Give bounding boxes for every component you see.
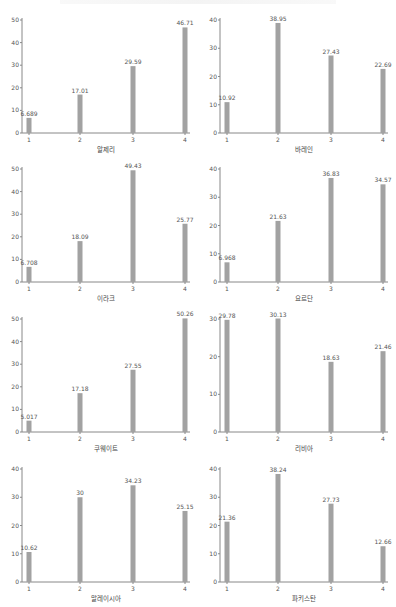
y-tick-label: 10 xyxy=(209,101,217,108)
x-tick-label: 4 xyxy=(381,136,385,143)
bar xyxy=(78,497,83,582)
bar xyxy=(131,485,136,582)
y-tick-label: 50 xyxy=(11,16,19,23)
y-tick-label: 20 xyxy=(11,383,19,390)
chart-panel-jordan: 01020304016.968221.63336.83434.57요르단 xyxy=(198,157,396,307)
y-tick-label: 40 xyxy=(209,465,217,472)
bar-value-label: 10.92 xyxy=(218,94,235,101)
x-tick-label: 2 xyxy=(78,435,82,442)
bar-value-label: 25.77 xyxy=(176,216,193,223)
bar-value-label: 38.24 xyxy=(269,466,286,473)
y-tick-label: 20 xyxy=(11,522,19,529)
bar-value-label: 17.01 xyxy=(71,87,88,94)
bar-value-label: 30 xyxy=(76,489,84,496)
chart-panel-algeria: 0102030405016.689217.01329.59446.71알제리 xyxy=(0,8,198,158)
bar-value-label: 21.36 xyxy=(218,514,235,521)
bar xyxy=(78,95,83,133)
bar xyxy=(329,178,334,282)
bar xyxy=(276,23,281,133)
y-tick-label: 50 xyxy=(11,315,19,322)
bar-value-label: 30.13 xyxy=(269,311,286,318)
bar xyxy=(78,241,83,282)
bar xyxy=(276,474,281,582)
y-tick-label: 10 xyxy=(11,255,19,262)
x-tick-label: 3 xyxy=(131,585,135,592)
bar xyxy=(225,320,230,432)
bar xyxy=(183,511,188,582)
x-tick-label: 2 xyxy=(276,435,280,442)
y-tick-label: 40 xyxy=(209,165,217,172)
bar xyxy=(329,362,334,432)
bar-value-label: 36.83 xyxy=(322,170,339,177)
x-tick-label: 1 xyxy=(27,585,31,592)
bar xyxy=(381,546,386,582)
bar-value-label: 22.69 xyxy=(374,61,391,68)
bar xyxy=(131,370,136,432)
bar-value-label: 21.46 xyxy=(374,343,391,350)
y-tick-label: 40 xyxy=(11,188,19,195)
x-axis-label: 바레인 xyxy=(295,145,313,154)
x-tick-label: 4 xyxy=(381,285,385,292)
y-tick-label: 40 xyxy=(11,338,19,345)
y-tick-label: 40 xyxy=(11,465,19,472)
x-tick-label: 3 xyxy=(329,285,333,292)
chart-panel-bahrain: 010203040110.92238.95327.43422.69바레인 xyxy=(198,8,396,158)
y-tick-label: 10 xyxy=(11,405,19,412)
bar-value-label: 29.78 xyxy=(218,312,235,319)
bar-value-label: 17.18 xyxy=(71,385,88,392)
bar xyxy=(329,504,334,582)
bar xyxy=(329,56,334,133)
bar-value-label: 46.71 xyxy=(176,19,193,26)
chart-panel-kuwait: 0102030405015.017217.18327.55450.26쿠웨이트 xyxy=(0,307,198,457)
bar-value-label: 34.23 xyxy=(124,477,141,484)
y-tick-label: 30 xyxy=(209,44,217,51)
bar-value-label: 50.26 xyxy=(176,310,193,317)
bar xyxy=(27,267,32,282)
y-tick-label: 20 xyxy=(209,353,217,360)
y-tick-label: 0 xyxy=(213,129,217,136)
x-tick-label: 1 xyxy=(225,435,229,442)
bar-value-label: 34.57 xyxy=(374,176,391,183)
x-tick-label: 1 xyxy=(27,435,31,442)
bar-value-label: 27.43 xyxy=(322,48,339,55)
bar-value-label: 6.689 xyxy=(20,110,37,117)
bar-value-label: 27.55 xyxy=(124,362,141,369)
bar-value-label: 21.63 xyxy=(269,213,286,220)
y-tick-label: 0 xyxy=(15,129,19,136)
x-tick-label: 1 xyxy=(225,585,229,592)
bar xyxy=(381,184,386,282)
bar xyxy=(225,522,230,582)
bar xyxy=(27,118,32,133)
bar xyxy=(225,102,230,133)
y-tick-label: 0 xyxy=(15,428,19,435)
y-tick-label: 40 xyxy=(11,39,19,46)
y-tick-label: 30 xyxy=(209,315,217,322)
y-tick-label: 10 xyxy=(209,550,217,557)
y-tick-label: 20 xyxy=(209,222,217,229)
bar xyxy=(381,69,386,133)
bar-value-label: 10.62 xyxy=(20,544,37,551)
bar xyxy=(381,351,386,432)
bar-value-label: 38.95 xyxy=(269,15,286,22)
bar xyxy=(183,27,188,133)
y-tick-label: 30 xyxy=(209,193,217,200)
bar xyxy=(183,224,188,282)
y-tick-label: 0 xyxy=(213,578,217,585)
x-axis-label: 요르단 xyxy=(295,294,313,303)
bar xyxy=(276,319,281,432)
chart-panel-pakistan: 010203040121.36238.24327.73412.66파키스탄 xyxy=(198,457,396,607)
y-tick-label: 0 xyxy=(15,278,19,285)
bar-value-label: 6.968 xyxy=(218,254,235,261)
x-tick-label: 1 xyxy=(225,136,229,143)
x-tick-label: 2 xyxy=(276,136,280,143)
y-tick-label: 50 xyxy=(11,165,19,172)
bar xyxy=(225,262,230,282)
y-tick-label: 10 xyxy=(11,550,19,557)
y-tick-label: 30 xyxy=(11,493,19,500)
x-tick-label: 3 xyxy=(329,136,333,143)
y-tick-label: 30 xyxy=(11,210,19,217)
x-tick-label: 2 xyxy=(78,285,82,292)
bar xyxy=(131,170,136,282)
bar xyxy=(276,221,281,282)
x-tick-label: 4 xyxy=(183,585,187,592)
